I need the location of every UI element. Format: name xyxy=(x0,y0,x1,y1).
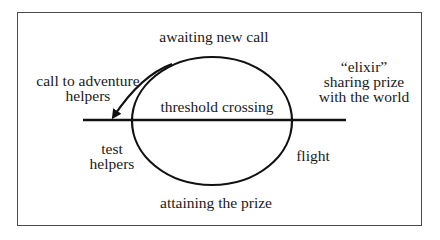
label-elixir: “elixir” sharing prize with the world xyxy=(319,59,409,104)
label-helpers-upper: helpers xyxy=(36,88,139,103)
label-elixir-line3: with the world xyxy=(319,89,409,104)
label-helpers-lower: helpers xyxy=(90,156,135,171)
label-attaining-the-prize: attaining the prize xyxy=(160,195,272,210)
label-call-to-adventure-line1: call to adventure xyxy=(36,73,139,88)
label-elixir-line2: sharing prize xyxy=(319,74,409,89)
label-call-to-adventure: call to adventure helpers xyxy=(36,73,139,103)
label-test-helpers: test helpers xyxy=(90,141,135,171)
label-awaiting-new-call: awaiting new call xyxy=(159,29,268,44)
label-flight: flight xyxy=(296,148,330,163)
label-test: test xyxy=(90,141,135,156)
label-elixir-line1: “elixir” xyxy=(319,59,409,74)
label-threshold-crossing: threshold crossing xyxy=(160,99,273,114)
